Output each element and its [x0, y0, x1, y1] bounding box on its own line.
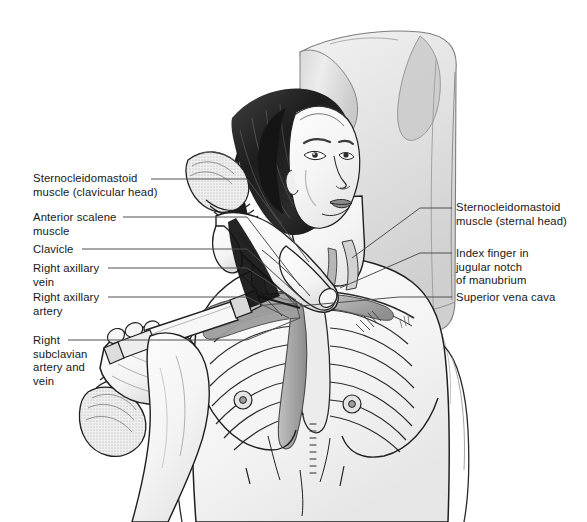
- label-line: vein: [33, 276, 99, 290]
- label-line: Right axillary: [33, 262, 99, 276]
- label-line: muscle (sternal head): [456, 215, 567, 229]
- label-line: muscle: [33, 225, 116, 239]
- label-line: Right axillary: [33, 291, 99, 305]
- label-line: Clavicle: [33, 243, 73, 257]
- label-line: Index finger in: [456, 247, 529, 261]
- label-line: Anterior scalene: [33, 211, 116, 225]
- label-line: of manubrium: [456, 274, 529, 288]
- label-right-axillary-vein: Right axillaryvein: [33, 262, 99, 289]
- label-line: Sternocleidomastoid: [33, 172, 158, 186]
- label-line: subclavian: [33, 348, 88, 362]
- label-line: Superior vena cava: [456, 291, 555, 305]
- label-right-axillary-artery: Right axillaryartery: [33, 291, 99, 318]
- anatomy-figure: Sternocleidomastoidmuscle (clavicular he…: [0, 0, 587, 522]
- label-right-subclavian-artery-and-vein: Rightsubclavianartery andvein: [33, 334, 88, 388]
- label-superior-vena-cava: Superior vena cava: [456, 291, 555, 305]
- label-line: Right: [33, 334, 88, 348]
- label-sternocleidomastoid-sternal-head: Sternocleidomastoidmuscle (sternal head): [456, 201, 567, 228]
- label-line: artery and: [33, 361, 88, 375]
- label-line: Sternocleidomastoid: [456, 201, 567, 215]
- label-line: artery: [33, 305, 99, 319]
- label-sternocleidomastoid-clavicular-head: Sternocleidomastoidmuscle (clavicular he…: [33, 172, 158, 199]
- label-line: muscle (clavicular head): [33, 186, 158, 200]
- label-line: jugular notch: [456, 261, 529, 275]
- label-index-finger-jugular-notch: Index finger injugular notchof manubrium: [456, 247, 529, 288]
- label-clavicle: Clavicle: [33, 243, 73, 257]
- label-anterior-scalene-muscle: Anterior scalenemuscle: [33, 211, 116, 238]
- label-line: vein: [33, 375, 88, 389]
